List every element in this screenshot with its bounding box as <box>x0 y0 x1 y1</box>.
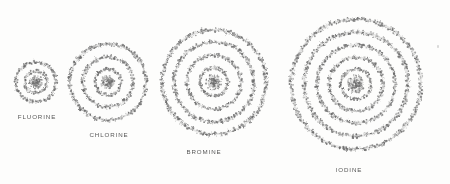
figure-canvas: FLUORINE CHLORINE BROMINE IODINE <box>0 0 450 184</box>
atom-label-bromine: BROMINE <box>186 148 221 155</box>
atom-label-fluorine: FLUORINE <box>18 113 57 120</box>
atom-diagram-svg <box>0 0 450 184</box>
atom-label-iodine: IODINE <box>336 166 363 173</box>
atom-bromine <box>159 27 268 136</box>
atom-iodine <box>288 17 423 152</box>
atoms-layer <box>14 17 424 152</box>
atom-label-chlorine: CHLORINE <box>89 131 128 138</box>
scan-speck-artifact <box>437 45 439 48</box>
atom-chlorine <box>67 42 148 123</box>
atom-fluorine <box>14 60 59 104</box>
